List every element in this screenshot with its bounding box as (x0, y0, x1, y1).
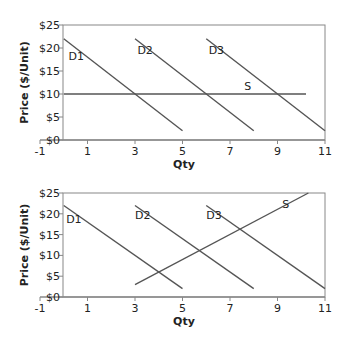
x-tick-label: -1 (35, 145, 46, 158)
x-tick-label: 7 (227, 145, 234, 158)
x-tick-label: 5 (179, 302, 186, 315)
x-tick-label: 9 (274, 302, 281, 315)
chart-1: -11357911$0$5$10$15$20$25QtyPrice ($/Uni… (18, 19, 332, 171)
x-tick-label: 1 (84, 145, 91, 158)
y-tick-label: $20 (39, 42, 60, 55)
label-d3: D3 (209, 44, 224, 57)
y-tick-label: $25 (39, 19, 60, 32)
supply-demand-charts: -11357911$0$5$10$15$20$25QtyPrice ($/Uni… (0, 0, 343, 338)
label-d3: D3 (206, 209, 221, 222)
y-tick-label: $20 (39, 208, 60, 221)
series-d3-line (206, 205, 325, 288)
x-tick-label: 3 (132, 145, 139, 158)
chart-2: -11357911$0$5$10$15$20$25QtyPrice ($/Uni… (18, 187, 332, 328)
label-d2: D2 (137, 44, 152, 57)
plot-area (63, 25, 325, 140)
y-tick-label: $0 (46, 134, 60, 147)
x-axis-label: Qty (173, 158, 195, 171)
x-tick-label: 11 (318, 302, 332, 315)
x-tick-label: 1 (84, 302, 91, 315)
y-axis-label: Price ($/Unit) (18, 204, 31, 287)
y-tick-label: $0 (46, 291, 60, 304)
x-tick-label: 3 (132, 302, 139, 315)
x-tick-label: 11 (318, 145, 332, 158)
x-tick-label: 7 (227, 302, 234, 315)
y-tick-label: $25 (39, 187, 60, 200)
y-tick-label: $15 (39, 229, 60, 242)
y-tick-label: $10 (39, 88, 60, 101)
label-d2: D2 (135, 209, 150, 222)
y-tick-label: $15 (39, 65, 60, 78)
y-axis-label: Price ($/Unit) (18, 41, 31, 124)
x-tick-label: 9 (274, 145, 281, 158)
y-tick-label: $10 (39, 249, 60, 262)
label-d1: D1 (69, 50, 84, 63)
label-s: S (244, 80, 251, 93)
label-s: S (282, 198, 289, 211)
y-tick-label: $5 (46, 270, 60, 283)
x-tick-label: 5 (179, 145, 186, 158)
label-d1: D1 (66, 213, 81, 226)
y-tick-label: $5 (46, 111, 60, 124)
series-d2-line (135, 205, 254, 288)
x-tick-label: -1 (35, 302, 46, 315)
x-axis-label: Qty (173, 315, 195, 328)
